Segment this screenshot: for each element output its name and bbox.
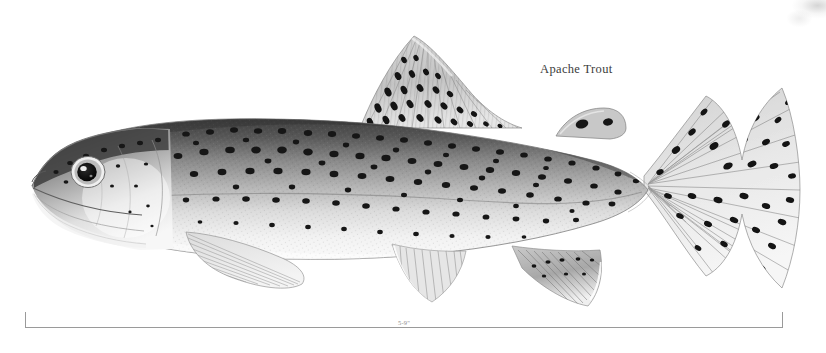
scale-bar-left-cap — [25, 312, 26, 328]
illustration-plate: Apache Trout 5-9" — [0, 0, 826, 353]
scale-size-label: 5-9" — [393, 320, 415, 327]
anal-fin — [512, 246, 602, 306]
apache-trout-illustration — [0, 0, 826, 353]
scale-bar-rule — [25, 327, 783, 328]
pelvic-fin — [392, 244, 466, 303]
eye — [71, 157, 105, 188]
caudal-fin — [644, 88, 800, 288]
head — [32, 128, 173, 250]
adipose-fin — [556, 108, 626, 139]
species-label: Apache Trout — [540, 62, 613, 77]
scale-bar: 5-9" — [25, 312, 783, 330]
scale-bar-right-cap — [782, 312, 783, 328]
